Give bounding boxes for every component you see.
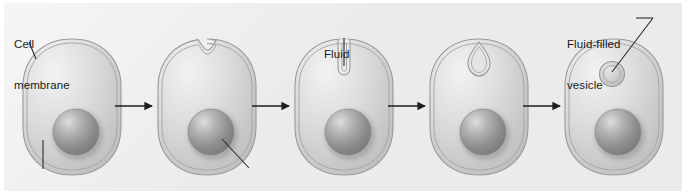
label-fluid-filled-vesicle: Fluid-filled vesicle	[567, 11, 621, 119]
label-cell-membrane-line2: membrane	[14, 79, 70, 93]
label-fluid-filled-vesicle-line1: Fluid-filled	[567, 38, 621, 52]
cell-stage-4	[430, 39, 528, 175]
label-nucleus: Nucleus	[219, 170, 261, 194]
label-fluid-filled-vesicle-line2: vesicle	[567, 79, 621, 93]
label-fluid-line1: Fluid	[324, 48, 349, 62]
label-fluid: Fluid	[324, 21, 349, 89]
label-cytoplasm: Cytoplasm	[12, 172, 67, 194]
cell-stage-2	[158, 39, 256, 175]
figure-canvas: Cell membrane Cytoplasm Nucleus Fluid Fl…	[0, 0, 686, 194]
label-cell-membrane: Cell membrane	[14, 11, 70, 119]
label-cell-membrane-line1: Cell	[14, 38, 70, 52]
